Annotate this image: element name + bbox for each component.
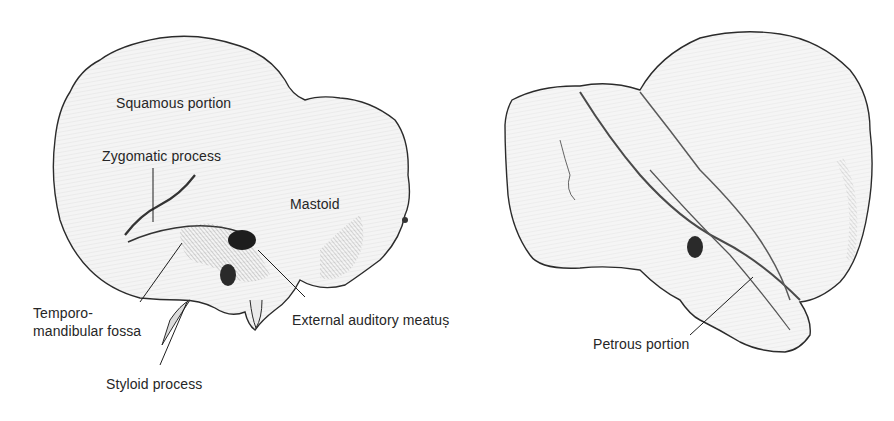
styloid-leader-line bbox=[160, 302, 187, 365]
label-petrous-portion: Petrous portion bbox=[593, 336, 689, 353]
medial-view-bone bbox=[505, 32, 872, 352]
temporal-bone-figure: Squamous portion Zygomatic process Masto… bbox=[0, 0, 894, 421]
lateral-view-bone bbox=[53, 36, 409, 345]
label-temporomandibular-fossa-line1: Temporo- bbox=[33, 305, 93, 322]
label-squamous-portion: Squamous portion bbox=[116, 95, 231, 112]
label-styloid-process: Styloid process bbox=[106, 376, 202, 393]
label-external-auditory-meatus: External auditory meatuș bbox=[292, 312, 449, 329]
label-mastoid: Mastoid bbox=[290, 196, 340, 213]
label-zygomatic-process: Zygomatic process bbox=[102, 148, 221, 165]
bone-illustrations bbox=[0, 0, 894, 421]
label-temporomandibular-fossa-line2: mandibular fossa bbox=[33, 323, 141, 340]
